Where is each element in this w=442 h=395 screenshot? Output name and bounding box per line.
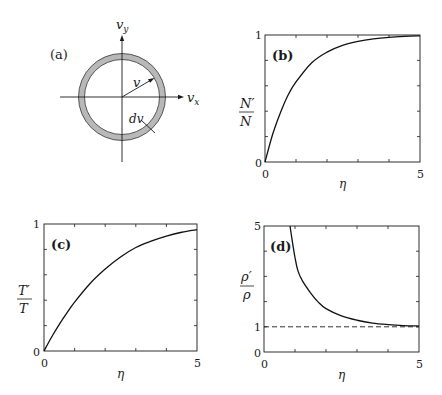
x-axis-label: η xyxy=(117,367,125,381)
panel-b-label: (b) xyxy=(272,48,293,63)
x-tick-0: 0 xyxy=(261,358,268,371)
x-tick-0: 0 xyxy=(41,357,48,370)
y-label-numerator: N′ xyxy=(239,96,254,111)
x-tick-0: 0 xyxy=(262,168,269,181)
panel-a-diagram: (a) vy vx v dv xyxy=(50,17,199,162)
y-tick-1: 1 xyxy=(255,29,262,42)
y-tick-1: 1 xyxy=(33,218,40,231)
x-tick-5: 5 xyxy=(417,168,424,181)
y-label-denominator: N xyxy=(239,114,252,129)
x-axis-label: η xyxy=(338,368,346,382)
y-tick-5: 5 xyxy=(254,220,261,233)
y-tick-0: 0 xyxy=(255,157,262,170)
shell-width-label: dv xyxy=(129,112,144,126)
panel-d-chart: (d) 5 1 0 0 5 η ρ′ ρ xyxy=(240,220,423,382)
panel-d-label: (d) xyxy=(270,239,291,254)
x-tick-5: 5 xyxy=(416,358,423,371)
radius-label: v xyxy=(133,75,141,90)
y-tick-0: 0 xyxy=(33,346,40,359)
x-axis-label: η xyxy=(339,177,347,191)
figure: (a) vy vx v dv (b) 1 0 0 5 η N′ N (c) 1 … xyxy=(0,0,442,395)
panel-c-chart: (c) 1 0 0 5 η T′ T xyxy=(17,218,201,381)
vx-axis-label: vx xyxy=(187,90,199,107)
y-label-numerator: ρ′ xyxy=(240,269,252,284)
y-tick-0: 0 xyxy=(254,347,261,360)
density-ratio-curve xyxy=(290,226,419,326)
y-tick-1: 1 xyxy=(254,321,261,334)
y-label-denominator: T xyxy=(19,301,29,316)
panel-b-chart: (b) 1 0 0 5 η N′ N xyxy=(239,29,424,191)
x-tick-5: 5 xyxy=(194,357,201,370)
panel-c-label: (c) xyxy=(51,237,71,252)
y-label-denominator: ρ xyxy=(242,287,251,302)
vx-arrowhead-icon xyxy=(178,95,184,99)
vy-arrowhead-icon xyxy=(120,35,124,41)
vy-axis-label: vy xyxy=(116,17,129,34)
panel-a-label: (a) xyxy=(50,47,68,62)
y-label-numerator: T′ xyxy=(18,283,30,298)
radius-arrowhead-icon xyxy=(148,78,155,83)
